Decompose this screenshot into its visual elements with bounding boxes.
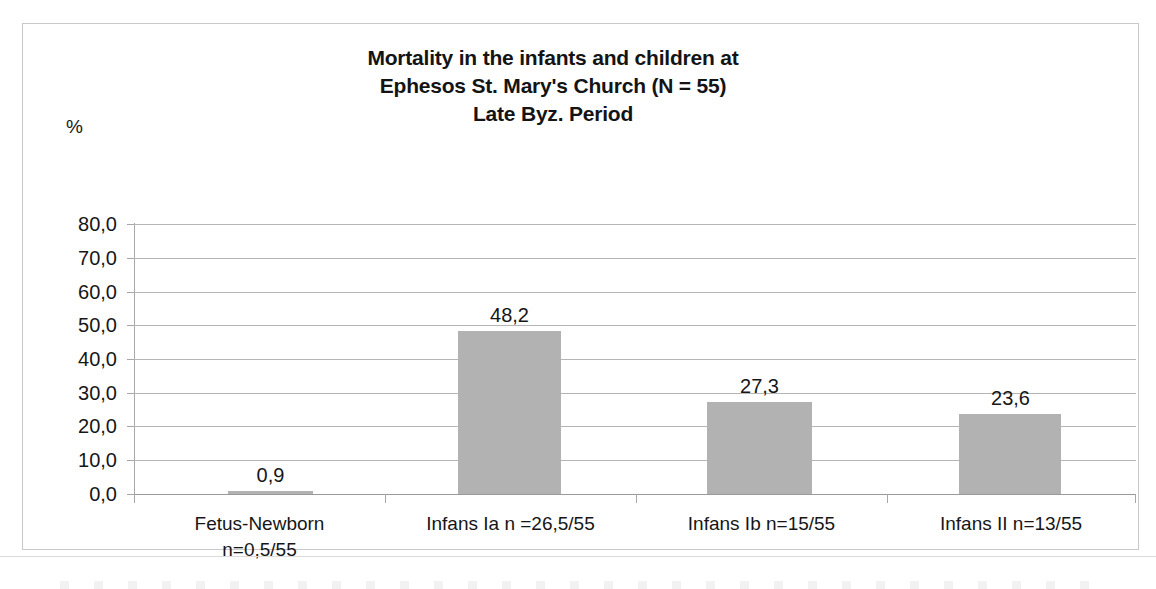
category-tick-2 <box>636 494 637 503</box>
data-label-infans-ib: 27,3 <box>697 376 822 396</box>
y-tick-mark-50 <box>127 325 134 326</box>
chart-title-line-2: Ephesos St. Mary's Church (N = 55) <box>143 72 963 100</box>
scan-artifact-strip <box>60 581 1100 589</box>
gridline-40 <box>134 359 1136 360</box>
chart-title-line-3: Late Byz. Period <box>143 100 963 128</box>
chart-frame: Mortality in the infants and children at… <box>22 23 1139 550</box>
y-axis-tick-labels: 80,0 70,0 60,0 50,0 40,0 30,0 20,0 10,0 … <box>23 224 123 495</box>
y-tick-mark-40 <box>127 359 134 360</box>
gridline-80 <box>134 224 1136 225</box>
chart-title-line-1: Mortality in the infants and children at <box>143 44 963 72</box>
category-tick-4 <box>1135 494 1136 503</box>
page-edge-line <box>0 556 1156 557</box>
y-tick-label-30: 30,0 <box>23 383 123 403</box>
y-tick-mark-30 <box>127 393 134 394</box>
y-tick-mark-70 <box>127 258 134 259</box>
category-tick-1 <box>385 494 386 503</box>
gridline-70 <box>134 258 1136 259</box>
data-label-fetus-newborn: 0,9 <box>208 465 333 485</box>
category-tick-0 <box>134 494 135 503</box>
y-tick-mark-80 <box>127 224 134 225</box>
y-tick-mark-10 <box>127 460 134 461</box>
bar-infans-ii[interactable] <box>959 414 1061 494</box>
plot-area: 0,9 48,2 27,3 23,6 <box>134 224 1136 494</box>
y-tick-label-40: 40,0 <box>23 349 123 369</box>
gridline-60 <box>134 292 1136 293</box>
category-label-fetus-newborn-line-2: n=0,5/55 <box>134 537 385 563</box>
y-tick-mark-0 <box>127 494 134 495</box>
category-label-infans-ii-line-1: Infans II n=13/55 <box>940 513 1082 534</box>
data-label-infans-ia: 48,2 <box>447 305 572 325</box>
category-label-fetus-newborn-line-1: Fetus-Newborn <box>195 513 325 534</box>
y-tick-label-80: 80,0 <box>23 214 123 234</box>
y-tick-mark-20 <box>127 426 134 427</box>
y-tick-label-0: 0,0 <box>23 484 123 504</box>
category-label-infans-ia-line-1: Infans Ia n =26,5/55 <box>426 513 595 534</box>
category-tick-3 <box>887 494 888 503</box>
y-tick-label-10: 10,0 <box>23 450 123 470</box>
y-tick-label-70: 70,0 <box>23 248 123 268</box>
gridline-50 <box>134 325 1136 326</box>
y-tick-mark-60 <box>127 292 134 293</box>
data-label-infans-ii: 23,6 <box>948 388 1073 408</box>
y-tick-label-50: 50,0 <box>23 315 123 335</box>
category-label-infans-ib[interactable]: Infans Ib n=15/55 <box>636 511 887 537</box>
category-label-infans-ib-line-1: Infans Ib n=15/55 <box>688 513 835 534</box>
y-tick-label-60: 60,0 <box>23 282 123 302</box>
category-axis: Fetus-Newborn n=0,5/55 Infans Ia n =26,5… <box>134 494 1136 572</box>
chart-title: Mortality in the infants and children at… <box>143 44 963 128</box>
y-tick-label-20: 20,0 <box>23 416 123 436</box>
bar-infans-ia[interactable] <box>458 331 561 494</box>
category-label-infans-ia[interactable]: Infans Ia n =26,5/55 <box>385 511 636 537</box>
category-label-infans-ii[interactable]: Infans II n=13/55 <box>887 511 1135 537</box>
y-axis-label: % <box>66 116 83 138</box>
bar-infans-ib[interactable] <box>707 402 812 494</box>
